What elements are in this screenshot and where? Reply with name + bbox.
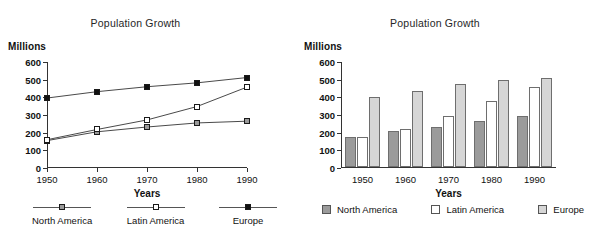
bar[interactable]	[517, 116, 528, 167]
bar-chart-plot-area: Years 0100200300400500600195019601970198…	[341, 62, 556, 168]
bar[interactable]	[431, 127, 442, 167]
y-axis-tick-label: 300	[319, 110, 335, 121]
line-chart-y-unit-label: Millions	[8, 41, 46, 52]
bar[interactable]	[455, 84, 466, 167]
line-chart-series-lines	[47, 62, 247, 168]
legend-item-europe[interactable]: Europe	[538, 204, 584, 215]
bar[interactable]	[369, 97, 380, 167]
bar[interactable]	[498, 80, 509, 167]
y-axis-tick-label: 500	[319, 74, 335, 85]
bar[interactable]	[412, 91, 423, 167]
bar[interactable]	[529, 87, 540, 167]
bar[interactable]	[486, 101, 497, 167]
legend-item-europe[interactable]: Europe	[219, 203, 277, 226]
y-axis-tick	[43, 150, 47, 151]
y-axis-tick-label: 200	[319, 127, 335, 138]
white-square-marker-icon	[153, 204, 159, 210]
data-point-marker[interactable]	[244, 118, 250, 124]
legend-label-north-america: North America	[337, 204, 397, 215]
y-axis-tick-label: 300	[25, 110, 41, 121]
data-point-marker[interactable]	[194, 104, 200, 110]
data-point-marker[interactable]	[144, 84, 150, 90]
legend-item-latin-america[interactable]: Latin America	[127, 203, 185, 226]
europe-line-key	[219, 203, 277, 211]
y-axis-tick	[337, 168, 341, 169]
figure-container: Population Growth Millions Years 0100200…	[0, 0, 595, 243]
legend-item-latin-america[interactable]: Latin America	[431, 204, 504, 215]
bar[interactable]	[443, 116, 454, 167]
line-chart-title: Population Growth	[0, 17, 283, 29]
y-axis-tick-label: 0	[330, 163, 335, 174]
line-series-latin-america	[47, 87, 247, 140]
y-axis-tick-label: 200	[25, 127, 41, 138]
x-axis-tick	[147, 168, 148, 172]
data-point-marker[interactable]	[144, 117, 150, 123]
data-point-marker[interactable]	[194, 80, 200, 86]
bar-chart-legend: North America Latin America Europe	[322, 204, 584, 215]
bar-chart-title: Population Growth	[285, 17, 585, 29]
bar[interactable]	[474, 121, 485, 167]
legend-label-north-america: North America	[32, 215, 92, 226]
legend-label-europe: Europe	[553, 204, 584, 215]
y-axis-tick-label: 600	[319, 57, 335, 68]
data-point-marker[interactable]	[194, 120, 200, 126]
line-chart-panel: Population Growth Millions Years 0100200…	[0, 0, 295, 243]
x-axis-tick	[247, 168, 248, 172]
black-square-marker-icon	[245, 204, 251, 210]
legend-label-latin-america: Latin America	[446, 204, 504, 215]
y-axis-tick-label: 600	[25, 57, 41, 68]
x-axis-tick-label: 1960	[86, 174, 107, 185]
bar-chart-panel: Population Growth Millions Years 0100200…	[295, 0, 595, 243]
y-axis-tick	[43, 133, 47, 134]
y-axis-tick-label: 0	[36, 163, 41, 174]
data-point-marker[interactable]	[144, 124, 150, 130]
data-point-marker[interactable]	[44, 95, 50, 101]
data-point-marker[interactable]	[244, 84, 250, 90]
y-axis-tick-label: 100	[25, 145, 41, 156]
bar[interactable]	[400, 129, 411, 168]
legend-item-north-america[interactable]: North America	[32, 203, 92, 226]
x-axis-tick	[197, 168, 198, 172]
data-point-marker[interactable]	[244, 75, 250, 81]
x-axis-tick-label: 1980	[481, 174, 502, 185]
y-axis-tick	[337, 97, 341, 98]
bar[interactable]	[345, 137, 356, 167]
x-axis-tick-label: 1990	[524, 174, 545, 185]
x-axis-tick-label: 1980	[186, 174, 207, 185]
north-america-line-key	[33, 203, 91, 211]
legend-label-europe: Europe	[233, 215, 264, 226]
x-axis-tick-label: 1970	[438, 174, 459, 185]
y-axis-tick	[337, 133, 341, 134]
x-axis-tick-label: 1990	[236, 174, 257, 185]
y-axis-tick	[337, 80, 341, 81]
line-chart-x-axis-title: Years	[47, 188, 247, 199]
x-axis-tick-label: 1960	[395, 174, 416, 185]
bar[interactable]	[541, 78, 552, 167]
x-axis-tick-label: 1970	[136, 174, 157, 185]
bar-chart-y-unit-label: Millions	[304, 41, 342, 52]
line-chart-legend: North America Latin America Europe	[32, 203, 277, 226]
y-axis-tick-label: 100	[319, 145, 335, 156]
bar-chart-x-axis-title: Years	[341, 188, 556, 199]
y-axis-tick	[337, 150, 341, 151]
bar-chart-y-axis	[341, 62, 342, 168]
y-axis-tick	[43, 62, 47, 63]
data-point-marker[interactable]	[94, 89, 100, 95]
data-point-marker[interactable]	[44, 137, 50, 143]
legend-label-latin-america: Latin America	[127, 215, 185, 226]
bar[interactable]	[357, 137, 368, 167]
y-axis-tick	[337, 62, 341, 63]
light-gray-swatch-icon	[538, 205, 547, 214]
y-axis-tick	[43, 115, 47, 116]
y-axis-tick-label: 400	[319, 92, 335, 103]
x-axis-tick	[47, 168, 48, 172]
data-point-marker[interactable]	[94, 126, 100, 132]
x-axis-tick-label: 1950	[36, 174, 57, 185]
gray-swatch-icon	[322, 205, 331, 214]
y-axis-tick-label: 500	[25, 74, 41, 85]
white-swatch-icon	[431, 205, 440, 214]
bar[interactable]	[388, 131, 399, 167]
legend-item-north-america[interactable]: North America	[322, 204, 397, 215]
line-chart-plot-area: Years 0100200300400500600195019601970198…	[47, 62, 247, 168]
gray-square-marker-icon	[59, 204, 65, 210]
